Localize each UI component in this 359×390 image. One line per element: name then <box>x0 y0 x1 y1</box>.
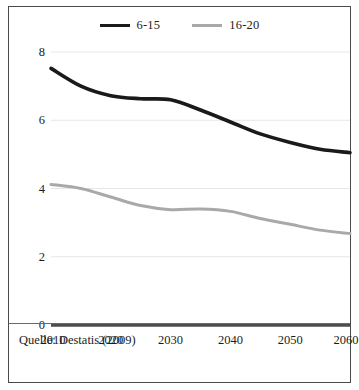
y-axis-labels: 02468 <box>17 35 49 335</box>
chart-legend: 6-15 16-20 <box>9 15 350 35</box>
y-tick-label: 6 <box>39 113 45 128</box>
legend-item-16-20[interactable]: 16-20 <box>192 19 259 32</box>
source-note: Quelle: Destatis (2009) <box>19 333 136 348</box>
y-tick-label: 8 <box>39 45 45 60</box>
x-tick-label: 2050 <box>278 333 303 348</box>
x-tick-label: 2040 <box>218 333 243 348</box>
legend-item-6-15[interactable]: 6-15 <box>100 19 161 32</box>
legend-line-swatch-gray <box>192 24 222 27</box>
legend-line-swatch-dark <box>100 24 130 27</box>
chart-figure: 6-15 16-20 02468 20102020203020402050206… <box>0 0 359 390</box>
legend-label-16-20: 16-20 <box>229 19 259 32</box>
plot-area <box>17 35 352 335</box>
plot-svg <box>17 35 352 335</box>
chart-frame: 6-15 16-20 02468 20102020203020402050206… <box>8 6 351 383</box>
footer-divider <box>9 323 350 324</box>
series-line-16-20 <box>51 184 350 233</box>
y-tick-label: 4 <box>39 181 45 196</box>
x-tick-label: 2030 <box>158 333 183 348</box>
series-line-6-15 <box>51 68 350 152</box>
y-tick-label: 2 <box>39 249 45 264</box>
legend-label-6-15: 6-15 <box>137 19 161 32</box>
x-tick-label: 2060 <box>334 333 359 348</box>
